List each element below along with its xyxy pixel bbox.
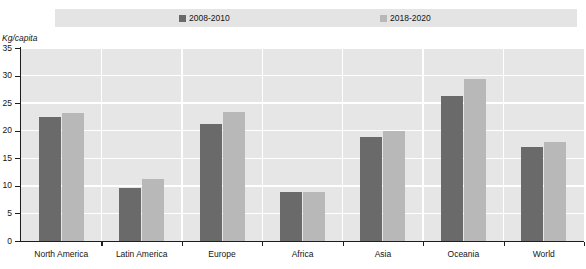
bar-group [360,48,405,241]
y-tick-mark [15,76,20,77]
category-separator [262,48,263,241]
legend-swatch-icon [179,15,186,22]
category-separator [101,48,102,241]
category-separator [422,48,423,241]
y-tick-mark [15,158,20,159]
bar[interactable] [223,112,245,241]
bar[interactable] [521,147,543,241]
y-tick-label: 30 [0,71,12,80]
x-axis-category-label: Latin America [101,249,181,259]
chart-legend: 2008-2010 2018-2020 [55,9,577,27]
y-axis-unit-label: Kg/capita [2,33,37,43]
bar[interactable] [303,192,325,241]
legend-label: 2018-2020 [390,14,431,23]
x-tick-mark [262,242,263,246]
bar[interactable] [360,137,382,241]
x-tick-mark [584,242,585,246]
bar[interactable] [119,188,141,241]
y-tick-mark [15,103,20,104]
bar[interactable] [142,179,164,241]
y-tick-label: 35 [0,44,12,53]
bar[interactable] [62,113,84,241]
bar-group [441,48,486,241]
y-tick-label: 20 [0,126,12,135]
x-axis-line [20,241,584,242]
x-tick-mark [423,242,424,246]
x-axis-category-label: Europe [182,249,262,259]
x-tick-mark [182,242,183,246]
y-tick-label: 0 [0,237,12,246]
legend-label: 2008-2010 [189,14,230,23]
bar-chart: 05101520253035 North AmericaLatin Americ… [0,44,586,269]
y-tick-mark [15,186,20,187]
bar[interactable] [280,192,302,241]
y-axis-line [20,47,21,242]
bar-group [39,48,84,241]
y-tick-mark [15,213,20,214]
legend-swatch-icon [380,15,387,22]
bar-group [200,48,245,241]
legend-item-2008-2010: 2008-2010 [179,14,230,23]
category-separator [342,48,343,241]
x-tick-mark [343,242,344,246]
category-separator [181,48,182,241]
y-tick-label: 10 [0,181,12,190]
y-tick-mark [15,131,20,132]
bar[interactable] [464,79,486,241]
x-axis-category-label: North America [21,249,101,259]
category-separator [503,48,504,241]
bar[interactable] [383,131,405,241]
bar[interactable] [544,142,566,241]
bar[interactable] [200,124,222,241]
bar-group [119,48,164,241]
x-tick-mark [504,242,505,246]
x-tick-mark [101,242,102,246]
y-tick-mark [15,241,20,242]
x-axis-category-label: Africa [262,249,342,259]
x-axis-category-label: Oceania [423,249,503,259]
bar-group [521,48,566,241]
bar[interactable] [39,117,61,241]
y-tick-mark [15,48,20,49]
legend-item-2018-2020: 2018-2020 [380,14,431,23]
bar-group [280,48,325,241]
y-tick-label: 25 [0,99,12,108]
bar[interactable] [441,96,463,241]
x-axis-category-label: World [504,249,584,259]
y-tick-label: 15 [0,154,12,163]
y-tick-label: 5 [0,209,12,218]
x-axis-category-label: Asia [343,249,423,259]
